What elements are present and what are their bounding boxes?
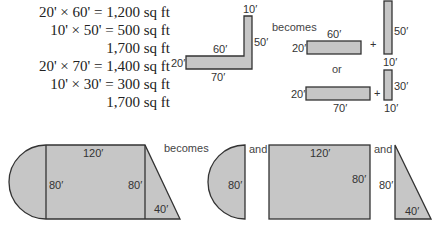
composite-top-label: 120′ <box>83 147 103 159</box>
triangle-base-label: 40′ <box>405 205 419 217</box>
and-label: and <box>374 143 392 155</box>
or-label: or <box>332 63 342 75</box>
rect-70x20 <box>306 87 370 100</box>
composite-right-label: 80′ <box>128 179 142 191</box>
l-bottom-label: 70′ <box>211 71 225 83</box>
l-inner-label: 60′ <box>213 43 227 55</box>
l-right-label: 50′ <box>254 36 268 48</box>
rect-b-bottom-label: 70′ <box>333 102 347 114</box>
rect-60x20 <box>307 41 361 54</box>
bar-b-height-label: 30′ <box>394 80 408 92</box>
and-label: and <box>249 143 267 155</box>
triangle-height-label: 80′ <box>379 179 393 191</box>
rect-top-label: 120′ <box>310 147 330 159</box>
rect-right-label: 80′ <box>352 173 366 185</box>
bar-a-height-label: 50′ <box>394 25 408 37</box>
rect-a-top-label: 60′ <box>327 28 341 40</box>
bar-a-width-label: 10′ <box>383 56 397 68</box>
rect-10x50 <box>384 1 392 54</box>
rect-10x30 <box>384 70 392 100</box>
rect-b-left-label: 20′ <box>291 88 305 100</box>
becomes-label: becomes <box>272 21 317 33</box>
plus-a: + <box>370 38 376 50</box>
rect-a-left-label: 20′ <box>292 42 306 54</box>
diagram: 10′ 50′ 60′ 20′ 70′ becomes 60′ 20′ + 50… <box>0 0 432 234</box>
bar-b-width-label: 10′ <box>384 102 398 114</box>
l-top-label: 10′ <box>243 3 257 15</box>
composite-triangle-label: 40′ <box>154 203 168 215</box>
composite-left-label: 80′ <box>49 179 63 191</box>
plus-b: + <box>374 87 380 99</box>
semicircle-label: 80′ <box>228 179 242 191</box>
becomes-label-bottom: becomes <box>164 142 209 154</box>
l-left-label: 20′ <box>171 57 185 69</box>
